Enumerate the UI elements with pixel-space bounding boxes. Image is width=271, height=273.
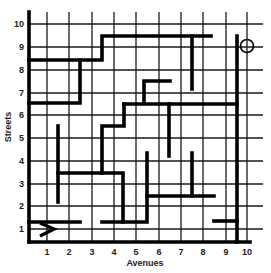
x-tick-label: 8	[200, 247, 205, 257]
wall-lower-shelf	[58, 173, 123, 222]
y-tick-label: 8	[19, 65, 24, 75]
y-tick-label: 2	[19, 201, 24, 211]
y-tick-label: 10	[14, 19, 24, 29]
y-axis-title: Streets	[3, 112, 13, 143]
y-tick-label: 1	[19, 224, 24, 234]
x-tick-label: 5	[133, 247, 138, 257]
wall-top-staircase	[29, 36, 211, 60]
x-tick-label: 6	[156, 247, 161, 257]
x-tick-label: 1	[44, 247, 49, 257]
x-tick-label: 2	[66, 247, 71, 257]
x-tick-label: 3	[89, 247, 94, 257]
y-axis-ticks: 12345678910	[14, 19, 24, 234]
x-tick-label: 10	[242, 247, 252, 257]
y-tick-label: 5	[19, 133, 24, 143]
y-tick-label: 7	[19, 88, 24, 98]
wall-small-hook	[144, 81, 170, 102]
x-tick-label: 9	[223, 247, 228, 257]
wall-upper-left-box	[29, 60, 80, 103]
y-tick-label: 6	[19, 110, 24, 120]
y-tick-label: 3	[19, 179, 24, 189]
x-tick-label: 7	[178, 247, 183, 257]
x-axis-ticks: 12345678910	[44, 247, 252, 257]
street-grid-maze: 12345678910 12345678910 Avenues Streets	[0, 0, 271, 273]
y-tick-label: 9	[19, 42, 24, 52]
y-tick-label: 4	[19, 156, 24, 166]
x-tick-label: 4	[111, 247, 116, 257]
x-axis-title: Avenues	[126, 258, 163, 268]
